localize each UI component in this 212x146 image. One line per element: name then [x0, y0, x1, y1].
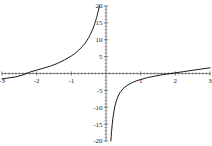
- function-plot: -3-2-1123 -20-15-10-55101520: [0, 0, 212, 146]
- y-tick-label: 10: [96, 36, 104, 44]
- y-tick-label: -15: [93, 121, 103, 129]
- x-tick-label: 2: [174, 77, 178, 85]
- y-tick-label: 15: [96, 19, 104, 27]
- x-tick-label: -2: [34, 77, 40, 85]
- y-tick-label: -5: [97, 87, 103, 95]
- plot-canvas: -3-2-1123 -20-15-10-55101520: [0, 0, 212, 146]
- y-tick-label: -10: [93, 104, 103, 112]
- x-tick-label: 3: [208, 77, 212, 85]
- y-tick-label: -20: [93, 137, 103, 145]
- y-tick-label: 5: [99, 53, 103, 61]
- x-tick-label: 1: [139, 77, 143, 85]
- x-tick-label: -1: [68, 77, 74, 85]
